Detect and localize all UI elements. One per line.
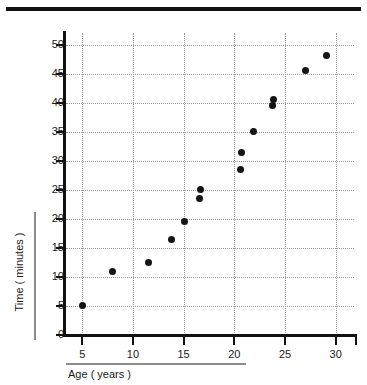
gridline-horizontal: [66, 45, 354, 46]
gridline-vertical: [82, 33, 83, 335]
x-axis-tick-label: 10: [118, 348, 148, 360]
x-axis-tick: [233, 336, 235, 345]
x-axis-tick: [132, 336, 134, 345]
y-axis-tick-label: 10: [42, 271, 64, 282]
gridline-horizontal: [66, 277, 354, 278]
gridline-vertical: [285, 33, 286, 335]
y-axis-title-rule: [34, 212, 36, 340]
y-axis-tick-label: 0: [42, 329, 64, 340]
data-point: [270, 96, 277, 103]
y-axis-tick-label: 35: [42, 126, 64, 137]
gridline-horizontal: [66, 190, 354, 191]
data-point: [168, 236, 175, 243]
data-point: [79, 302, 86, 309]
gridline-horizontal: [66, 132, 354, 133]
gridline-horizontal: [66, 306, 354, 307]
data-point: [109, 268, 116, 275]
data-point: [269, 102, 276, 109]
gridline-horizontal: [66, 103, 354, 104]
x-axis-tick-label: 5: [67, 348, 97, 360]
scatter-plot-figure: Time ( minutes ) Age ( years ) 051015202…: [0, 0, 367, 385]
gridline-horizontal: [66, 219, 354, 220]
gridline-vertical: [336, 33, 337, 335]
data-point: [238, 149, 245, 156]
x-axis-title-rule: [66, 363, 246, 365]
x-axis-tick: [335, 336, 337, 345]
y-axis-title: Time ( minutes ): [13, 212, 25, 332]
y-axis-tick-label: 40: [42, 97, 64, 108]
gridline-vertical: [184, 33, 185, 335]
x-axis-tick-label: 25: [270, 348, 300, 360]
x-axis-tick: [183, 336, 185, 345]
data-point: [196, 195, 203, 202]
gridline-vertical: [234, 33, 235, 335]
x-axis-tick-label: 20: [219, 348, 249, 360]
data-point: [181, 218, 188, 225]
data-point: [323, 52, 330, 59]
gridline-horizontal: [66, 74, 354, 75]
data-point: [145, 259, 152, 266]
y-axis-tick-label: 5: [42, 300, 64, 311]
y-axis-tick-label: 45: [42, 68, 64, 79]
x-axis-tick-label: 15: [169, 348, 199, 360]
plot-area: [66, 33, 354, 335]
x-axis-tick: [81, 336, 83, 345]
y-axis-tick-label: 15: [42, 242, 64, 253]
x-axis-tick: [284, 336, 286, 345]
y-axis-tick-label: 20: [42, 213, 64, 224]
gridline-horizontal: [66, 248, 354, 249]
y-axis-tick-label: 25: [42, 184, 64, 195]
data-point: [237, 166, 244, 173]
x-axis-tick-label: 30: [321, 348, 351, 360]
x-axis-end-tick: [355, 336, 357, 345]
y-axis-tick-label: 50: [42, 39, 64, 50]
x-axis-line: [63, 334, 357, 337]
gridline-vertical: [133, 33, 134, 335]
gridline-horizontal: [66, 161, 354, 162]
data-point: [250, 128, 257, 135]
data-point: [197, 186, 204, 193]
x-axis-title: Age ( years ): [68, 368, 131, 380]
y-axis-tick-label: 30: [42, 155, 64, 166]
